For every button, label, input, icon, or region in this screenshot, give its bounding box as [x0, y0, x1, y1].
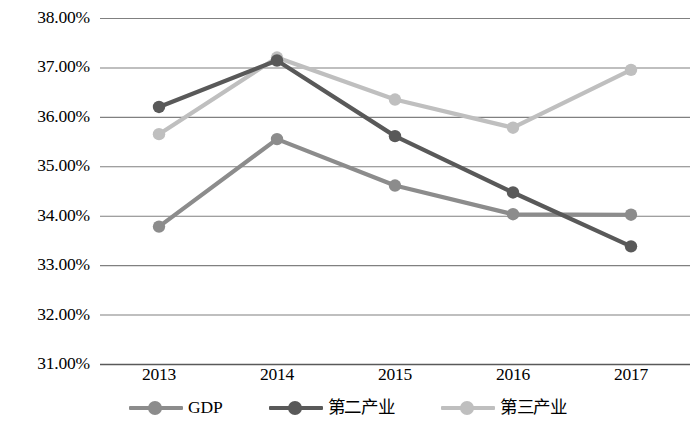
data-point-marker	[389, 179, 401, 191]
series-3	[153, 51, 637, 140]
legend-item-label: GDP	[188, 399, 222, 417]
x-axis-tick-label: 2014	[232, 366, 322, 384]
plot-area	[0, 0, 696, 423]
legend-marker-icon	[441, 400, 495, 416]
data-point-marker	[507, 208, 519, 220]
legend-item[interactable]: 第二产业	[269, 399, 395, 417]
data-point-marker	[507, 186, 519, 198]
data-point-marker	[625, 64, 637, 76]
legend-item-label: 第二产业	[328, 399, 395, 417]
data-point-marker	[153, 220, 165, 232]
legend-item[interactable]: GDP	[129, 399, 222, 417]
data-point-marker	[153, 128, 165, 140]
legend-dot-swatch	[288, 401, 302, 415]
data-point-marker	[271, 54, 283, 66]
data-point-marker	[625, 240, 637, 252]
data-point-marker	[389, 130, 401, 142]
data-point-marker	[153, 101, 165, 113]
line-chart: 38.00%37.00%36.00%35.00%34.00%33.00%32.0…	[0, 0, 696, 423]
data-point-marker	[507, 122, 519, 134]
x-axis-tick-label: 2015	[350, 366, 440, 384]
data-point-marker	[389, 93, 401, 105]
chart-legend: GDP第二产业第三产业	[0, 392, 696, 423]
x-axis-tick-label: 2013	[114, 366, 204, 384]
series-layer	[153, 51, 637, 252]
data-point-marker	[625, 209, 637, 221]
legend-marker-icon	[269, 400, 323, 416]
legend-dot-swatch	[148, 401, 162, 415]
legend-marker-icon	[129, 400, 183, 416]
data-point-marker	[271, 133, 283, 145]
legend-item-label: 第三产业	[500, 399, 567, 417]
x-axis-tick-label: 2016	[468, 366, 558, 384]
legend-item[interactable]: 第三产业	[441, 399, 567, 417]
series-2	[153, 54, 637, 252]
x-axis-tick-label: 2017	[586, 366, 676, 384]
legend-dot-swatch	[460, 401, 474, 415]
